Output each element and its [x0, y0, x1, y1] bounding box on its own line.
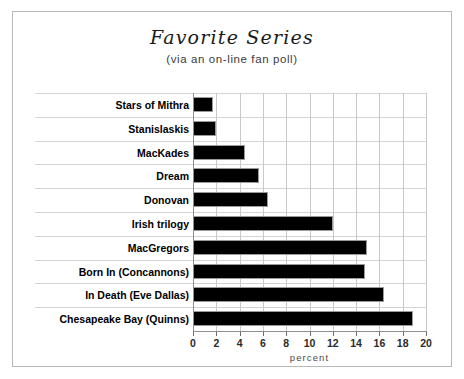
bar-row: [193, 307, 426, 331]
bar: [193, 240, 367, 255]
x-tick-label: 20: [411, 337, 441, 349]
bar: [193, 264, 365, 279]
bar: [193, 216, 333, 231]
x-tick-mark: [310, 332, 311, 336]
x-tick-mark: [426, 332, 427, 336]
category-label: Stars of Mithra: [7, 99, 189, 111]
chart-page: Favorite Series (via an on-line fan poll…: [0, 0, 464, 379]
x-tick-mark: [403, 332, 404, 336]
bar: [193, 97, 213, 112]
bar-row: [193, 236, 426, 260]
bar-row: [193, 283, 426, 307]
category-labels: Stars of MithraStanislaskisMacKadesDream…: [5, 93, 189, 331]
chart-title: Favorite Series: [0, 26, 464, 48]
gridline-vertical: [426, 93, 427, 331]
category-label: In Death (Eve Dallas): [7, 289, 189, 301]
category-label: MacKades: [7, 147, 189, 159]
category-label: Chesapeake Bay (Quinns): [7, 313, 189, 325]
category-label: Donovan: [7, 194, 189, 206]
plot-area: [193, 93, 426, 331]
bar-row: [193, 188, 426, 212]
bar-row: [193, 260, 426, 284]
bar: [193, 311, 413, 326]
category-label: Dream: [7, 170, 189, 182]
chart-subtitle: (via an on-line fan poll): [0, 52, 464, 66]
bar-row: [193, 93, 426, 117]
category-label: Irish trilogy: [7, 218, 189, 230]
x-axis-title: percent: [193, 352, 426, 363]
title-block: Favorite Series (via an on-line fan poll…: [0, 26, 464, 66]
x-tick-mark: [240, 332, 241, 336]
bar-row: [193, 212, 426, 236]
x-tick-mark: [333, 332, 334, 336]
bar: [193, 192, 268, 207]
x-tick-mark: [286, 332, 287, 336]
bar: [193, 287, 384, 302]
bar: [193, 168, 259, 183]
bar-row: [193, 141, 426, 165]
bar: [193, 121, 216, 136]
x-tick-mark: [216, 332, 217, 336]
bar: [193, 145, 245, 160]
bar-row: [193, 117, 426, 141]
y-axis-line: [193, 93, 194, 332]
bar-row: [193, 164, 426, 188]
category-label: Stanislaskis: [7, 123, 189, 135]
x-tick-mark: [193, 332, 194, 336]
category-label: MacGregors: [7, 242, 189, 254]
x-tick-mark: [263, 332, 264, 336]
x-tick-mark: [356, 332, 357, 336]
x-axis-ticks: 02468101214161820: [193, 332, 426, 354]
x-tick-mark: [379, 332, 380, 336]
category-label: Born In (Concannons): [7, 266, 189, 278]
